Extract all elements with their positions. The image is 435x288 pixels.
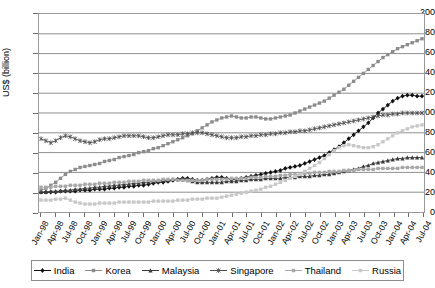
- x-axis-tick-mark: [143, 213, 144, 217]
- y-axis-tick-mark: [33, 213, 38, 214]
- legend-label: Russia: [372, 265, 401, 276]
- legend-label: Singapore: [230, 265, 273, 276]
- x-axis-tick-mark: [84, 213, 85, 217]
- legend-label: Malaysia: [162, 265, 200, 276]
- legend-item-india[interactable]: India: [34, 265, 75, 276]
- plot-area: [38, 13, 425, 213]
- legend-marker-triangle-icon: [142, 267, 159, 274]
- x-axis-tick-mark: [364, 213, 365, 217]
- x-axis-tick-mark: [246, 213, 247, 217]
- y-axis-title: US$ (billion): [1, 81, 11, 97]
- legend-marker-square-icon: [285, 267, 302, 274]
- legend-marker-square-icon: [352, 267, 369, 274]
- legend-marker-diamond-icon: [34, 267, 51, 274]
- x-axis-tick-mark: [55, 213, 56, 217]
- x-axis-tick-mark: [158, 213, 159, 217]
- x-axis-tick-mark: [290, 213, 291, 217]
- x-axis-tick-mark: [408, 213, 409, 217]
- x-axis-tick-mark: [379, 213, 380, 217]
- x-axis-tick-mark: [202, 213, 203, 217]
- series-lines: [39, 14, 424, 212]
- x-axis-tick-mark: [114, 213, 115, 217]
- series-malaysia: [39, 155, 424, 194]
- x-axis-tick-mark: [349, 213, 350, 217]
- legend-item-russia[interactable]: Russia: [352, 265, 401, 276]
- x-axis-tick-mark: [217, 213, 218, 217]
- legend-item-thailand[interactable]: Thailand: [285, 265, 341, 276]
- series-thailand: [39, 166, 423, 189]
- legend-item-malaysia[interactable]: Malaysia: [142, 265, 200, 276]
- x-axis-tick-mark: [394, 213, 395, 217]
- x-axis-tick-mark: [173, 213, 174, 217]
- legend-marker-star-icon: [210, 267, 227, 274]
- x-axis-tick-mark: [187, 213, 188, 217]
- legend-item-singapore[interactable]: Singapore: [210, 265, 273, 276]
- x-axis-tick-mark: [423, 213, 424, 217]
- legend-label: India: [54, 265, 75, 276]
- x-axis-tick-mark: [232, 213, 233, 217]
- legend-item-korea[interactable]: Korea: [85, 265, 130, 276]
- legend-marker-square-icon: [85, 267, 102, 274]
- legend-label: Korea: [105, 265, 130, 276]
- x-axis-tick-mark: [276, 213, 277, 217]
- series-korea: [39, 37, 423, 192]
- chart-legend: IndiaKoreaMalaysiaSingaporeThailandRussi…: [31, 260, 404, 281]
- x-axis-tick-mark: [335, 213, 336, 217]
- legend-label: Thailand: [305, 265, 341, 276]
- chart-container: US$ (billion) 20018016014012010080604020…: [0, 0, 435, 288]
- x-axis-tick-mark: [99, 213, 100, 217]
- x-axis-tick-mark: [40, 213, 41, 217]
- x-axis-tick-mark: [69, 213, 70, 217]
- x-axis-tick-mark: [128, 213, 129, 217]
- x-axis-tick-mark: [320, 213, 321, 217]
- x-axis-tick-mark: [261, 213, 262, 217]
- x-axis-tick-mark: [305, 213, 306, 217]
